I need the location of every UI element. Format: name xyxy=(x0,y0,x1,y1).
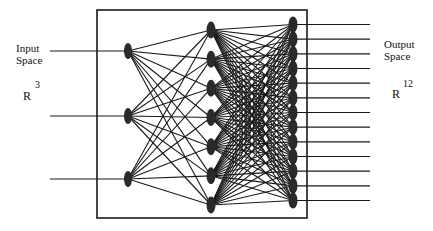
edge-input-hidden xyxy=(128,116,211,176)
network-diagram xyxy=(0,0,433,231)
hidden-node xyxy=(207,138,216,155)
hidden-node xyxy=(207,167,216,184)
output-node xyxy=(289,90,298,106)
hidden-node xyxy=(207,80,216,97)
output-node xyxy=(289,163,298,179)
output-node xyxy=(289,105,298,121)
edge-hidden-output xyxy=(211,201,293,206)
input-node xyxy=(124,108,132,124)
edge-input-hidden xyxy=(128,51,211,205)
edge-input-hidden xyxy=(128,51,211,147)
edge-input-hidden xyxy=(128,147,211,179)
output-node xyxy=(289,193,298,209)
edge-input-hidden xyxy=(128,30,211,51)
edge-input-hidden xyxy=(128,116,211,147)
hidden-node xyxy=(207,109,216,126)
input-node xyxy=(124,171,132,187)
output-node xyxy=(289,149,298,165)
output-label: Output Space xyxy=(384,38,415,62)
input-space-exponent: 3 xyxy=(35,79,40,90)
output-node xyxy=(289,119,298,135)
output-node xyxy=(289,17,298,33)
output-label-line1: Output xyxy=(384,38,415,50)
hidden-node xyxy=(207,51,216,68)
hidden-node xyxy=(207,22,216,39)
input-space-base: R xyxy=(23,90,31,102)
input-label-line1: Input xyxy=(16,42,42,54)
edge-input-hidden xyxy=(128,118,211,180)
output-node xyxy=(289,178,298,194)
output-space-base: R xyxy=(392,88,400,100)
output-label-line2: Space xyxy=(384,50,415,62)
edge-input-hidden xyxy=(128,116,211,118)
output-node xyxy=(289,75,298,91)
output-node xyxy=(289,134,298,150)
output-node xyxy=(289,46,298,62)
output-node xyxy=(289,61,298,77)
input-label-line2: Space xyxy=(16,54,42,66)
edge-input-hidden xyxy=(128,176,211,179)
hidden-node xyxy=(207,197,216,214)
input-label: Input Space xyxy=(16,42,42,66)
output-space-exponent: 12 xyxy=(403,78,413,89)
output-node xyxy=(289,31,298,47)
input-node xyxy=(124,43,132,59)
